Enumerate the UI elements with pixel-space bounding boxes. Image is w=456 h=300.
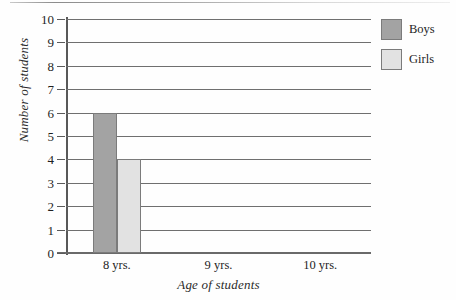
gridline	[66, 89, 371, 90]
x-axis-title: Age of students	[66, 277, 371, 293]
y-axis-tick-label: 3	[48, 176, 55, 189]
y-axis-tick-label: 8	[48, 59, 55, 72]
y-axis-tick-mark	[57, 136, 65, 137]
y-axis-tick-label: 4	[48, 153, 55, 166]
y-axis-tick-mark	[57, 89, 65, 90]
y-axis-tick-label: 1	[48, 223, 55, 236]
x-axis-category-label: 10 yrs.	[303, 258, 337, 273]
legend-item-girls: Girls	[381, 49, 453, 70]
bar-chart-figure: Number of students 012345678910 Age of s…	[0, 0, 456, 300]
y-axis-tick-mark	[57, 19, 65, 20]
gridline	[66, 66, 371, 67]
y-axis-tick-mark	[57, 66, 65, 67]
y-axis-tick-mark	[57, 230, 65, 231]
x-axis-category-label: 9 yrs.	[205, 258, 233, 273]
y-axis-tick-label: 9	[48, 36, 55, 49]
legend-label: Girls	[409, 52, 434, 67]
y-axis-tick-label: 6	[48, 106, 55, 119]
y-axis-tick-mark	[57, 159, 65, 160]
gridline	[66, 19, 371, 20]
y-axis-tick-label: 2	[48, 200, 55, 213]
legend: BoysGirls	[381, 19, 453, 79]
legend-item-boys: Boys	[381, 19, 453, 40]
y-axis-tick-label: 5	[48, 130, 55, 143]
y-axis-tick-mark	[57, 206, 65, 207]
bar-boys-0	[93, 113, 117, 253]
y-axis-tick-mark	[57, 113, 65, 114]
x-axis-category-label: 8 yrs.	[103, 258, 131, 273]
gridline	[66, 42, 371, 43]
y-axis-tick-label: 0	[48, 247, 55, 260]
y-axis-tick-mark	[57, 253, 65, 254]
legend-swatch-girls	[381, 49, 402, 70]
y-axis-tick-mark	[57, 42, 65, 43]
y-axis-tick-mark	[57, 183, 65, 184]
legend-label: Boys	[409, 22, 435, 37]
y-axis-title: Number of students	[16, 10, 32, 170]
plot-area: 012345678910	[66, 19, 371, 253]
legend-swatch-boys	[381, 19, 402, 40]
y-axis-tick-label: 10	[41, 13, 54, 26]
bar-girls-0	[117, 159, 141, 253]
y-axis-tick-label: 7	[48, 83, 55, 96]
top-rule-divider	[10, 2, 450, 3]
